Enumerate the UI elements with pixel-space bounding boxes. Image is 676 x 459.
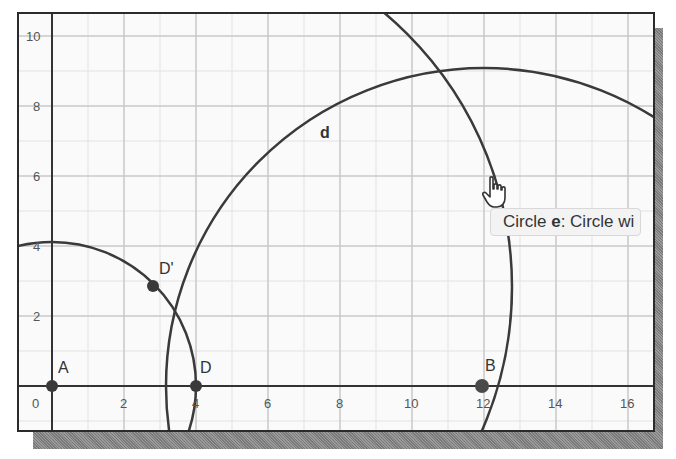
tooltip-suffix: : Circle wi <box>561 212 635 231</box>
label-d-prime: D' <box>159 260 174 278</box>
object-tooltip: Circle e: Circle wi <box>490 208 641 236</box>
label-b: B <box>485 357 496 375</box>
tooltip-object-name: e <box>551 212 560 231</box>
label-d: D <box>200 359 212 377</box>
tooltip-prefix: Circle <box>503 212 551 231</box>
label-circle-d: d <box>320 124 330 142</box>
hand-pointer-icon <box>482 176 510 210</box>
label-a: A <box>58 359 69 377</box>
